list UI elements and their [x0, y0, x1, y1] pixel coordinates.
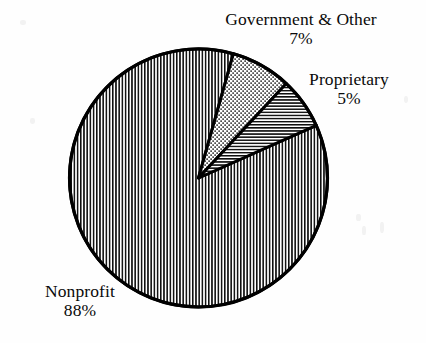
pie-label-government-percent: 7% — [196, 29, 406, 48]
pie-label-proprietary-name: Proprietary — [276, 70, 422, 89]
pie-label-government: Government & Other 7% — [196, 10, 406, 48]
pie-chart-figure: Government & Other 7% Proprietary 5% Non… — [0, 0, 426, 343]
pie-label-nonprofit: Nonprofit 88% — [8, 282, 152, 320]
pie-label-nonprofit-percent: 88% — [8, 301, 152, 320]
pie-label-government-name: Government & Other — [196, 10, 406, 29]
pie-label-proprietary-percent: 5% — [276, 89, 422, 108]
pie-label-proprietary: Proprietary 5% — [276, 70, 422, 108]
pie-label-nonprofit-name: Nonprofit — [8, 282, 152, 301]
